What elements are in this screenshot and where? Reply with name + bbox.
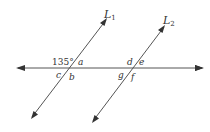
angle-b-label: b <box>69 72 75 82</box>
line-L2 <box>93 27 164 121</box>
angle-d-label: d <box>127 57 133 67</box>
angle-c-label: c <box>56 70 61 80</box>
angle-a-label: a <box>78 57 83 67</box>
angle-135-label: 135° <box>52 57 74 67</box>
transversal-right-arrow-icon <box>195 65 204 71</box>
angle-e-label: e <box>139 57 144 67</box>
transversal-left-arrow-icon <box>16 65 25 71</box>
label-L2: L2 <box>162 14 175 28</box>
label-L1: L1 <box>103 8 116 22</box>
parallel-lines-diagram: L1 L2 135° a c b d e g f <box>0 0 210 132</box>
L2-bottom-arrow-icon <box>92 115 99 123</box>
L1-bottom-arrow-icon <box>31 111 38 119</box>
angle-g-label: g <box>118 70 124 80</box>
angle-f-label: f <box>130 72 136 82</box>
